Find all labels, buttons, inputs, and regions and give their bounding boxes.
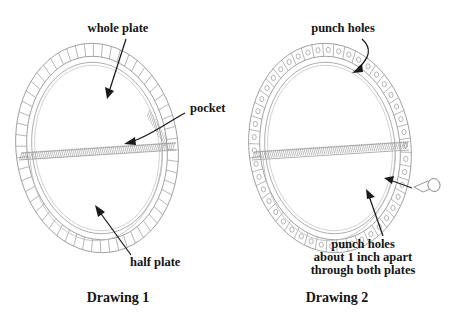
punch-hole xyxy=(402,129,407,135)
punch-hole xyxy=(261,187,266,193)
note-punch-holes-line-1: punch holes xyxy=(331,237,395,251)
punch-hole xyxy=(368,231,373,237)
punch-hole xyxy=(316,47,321,53)
punch-hole xyxy=(287,59,292,65)
pocket-hatching-2 xyxy=(253,141,408,159)
punch-hole xyxy=(346,52,351,58)
label-half-plate: half plate xyxy=(130,255,181,269)
punch-hole xyxy=(253,121,258,127)
punch-hole xyxy=(290,227,295,233)
pocket-hatching xyxy=(20,142,175,160)
punch-hole xyxy=(259,96,264,102)
caption-drawing-1: Drawing 1 xyxy=(87,290,150,305)
punch-hole xyxy=(402,169,407,175)
punch-hole xyxy=(267,198,272,204)
half-plate-arc xyxy=(30,148,162,241)
punch-hole xyxy=(299,233,304,239)
punch-hole xyxy=(319,242,324,248)
drawing-2: punch holes punch holes about 1 inch apa… xyxy=(237,21,442,305)
punch-hole xyxy=(389,92,394,98)
note-punch-holes-line-3: through both plates xyxy=(311,263,416,277)
punch-hole xyxy=(326,47,331,53)
pin-head xyxy=(426,177,442,193)
punch-hole xyxy=(384,215,389,221)
label-whole-plate: whole plate xyxy=(88,21,149,35)
punch-hole xyxy=(254,161,259,167)
punch-hole xyxy=(309,239,314,245)
label-punch-holes-top: punch holes xyxy=(311,21,375,35)
punch-hole xyxy=(271,75,276,81)
technical-drawing-figure: whole plate pocket half plate Drawing 1 xyxy=(0,0,458,328)
punch-hole xyxy=(399,116,404,122)
half-plate-arc-2 xyxy=(263,148,395,241)
punch-hole xyxy=(257,174,262,180)
punch-hole xyxy=(366,64,371,70)
punch-pin xyxy=(414,177,442,193)
note-punch-holes-line-2: about 1 inch apart xyxy=(314,250,413,264)
punch-hole xyxy=(256,108,261,114)
punch-hole xyxy=(306,50,311,56)
punch-hole xyxy=(273,209,278,215)
drawing-1: whole plate pocket half plate Drawing 1 xyxy=(4,21,226,305)
punch-hole xyxy=(374,72,379,78)
punch-hole xyxy=(396,194,401,200)
punch-hole xyxy=(336,49,341,55)
caption-drawing-2: Drawing 2 xyxy=(306,290,369,305)
punch-hole xyxy=(281,219,286,225)
punch-hole xyxy=(382,81,387,87)
punch-hole xyxy=(265,85,270,91)
punch-hole xyxy=(296,54,301,60)
punch-hole xyxy=(356,57,361,63)
punch-hole xyxy=(278,66,283,72)
punch-hole xyxy=(403,156,408,162)
punch-hole xyxy=(252,134,257,140)
label-pocket: pocket xyxy=(190,101,226,115)
punch-hole xyxy=(391,205,396,211)
punch-hole xyxy=(394,104,399,110)
